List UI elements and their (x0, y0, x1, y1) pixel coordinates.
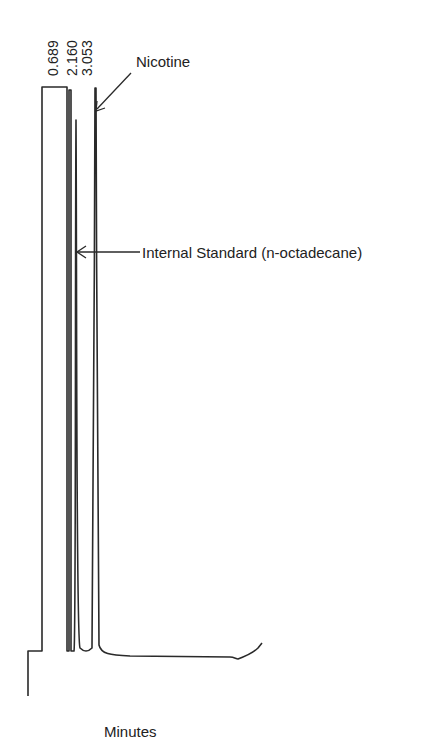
nicotine-arrow-icon (96, 73, 131, 111)
internal-standard-arrow-icon (77, 246, 140, 258)
chromatogram (0, 0, 423, 746)
chromatogram-trace (28, 87, 262, 696)
peak-label-0689: 0.689 (45, 40, 61, 76)
x-axis-label: Minutes (104, 723, 157, 740)
internal-standard-annotation: Internal Standard (n-octadecane) (142, 244, 362, 261)
peak-label-2160: 2.160 (64, 40, 80, 76)
nicotine-annotation: Nicotine (136, 53, 190, 70)
peak-label-3053: 3.053 (79, 40, 95, 76)
